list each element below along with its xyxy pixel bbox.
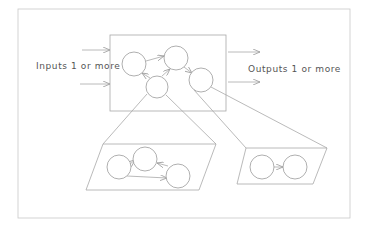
sub-right-node-n2 — [283, 155, 307, 179]
sub-left-node-n2 — [133, 147, 157, 171]
system-diagram: Inputs 1 or more Outputs 1 or more — [0, 0, 366, 228]
sub-left-edge-n1-n3 — [127, 176, 167, 178]
node-n1 — [122, 52, 146, 76]
sub-right-node-n1 — [250, 155, 274, 179]
main-nodes — [122, 46, 213, 98]
sub-left-node-n1 — [107, 155, 131, 179]
connector-right-a — [194, 90, 246, 148]
subsystem-left-nodes — [107, 147, 190, 188]
node-n2 — [164, 46, 188, 70]
edge-n3-n1 — [142, 73, 150, 78]
sub-left-edge-n3-n2 — [157, 163, 168, 166]
inputs-label: Inputs 1 or more — [36, 61, 120, 71]
zoom-connectors — [103, 87, 327, 148]
connector-right-b — [211, 87, 327, 148]
node-n4 — [189, 68, 213, 92]
edge-n2-n4 — [184, 67, 192, 73]
sub-left-node-n3 — [166, 164, 190, 188]
node-n3 — [146, 76, 168, 98]
outputs-label: Outputs 1 or more — [248, 64, 341, 74]
connector-left-b — [166, 95, 216, 144]
edge-n1-n2 — [146, 56, 164, 61]
edge-n3-n2 — [162, 69, 170, 76]
